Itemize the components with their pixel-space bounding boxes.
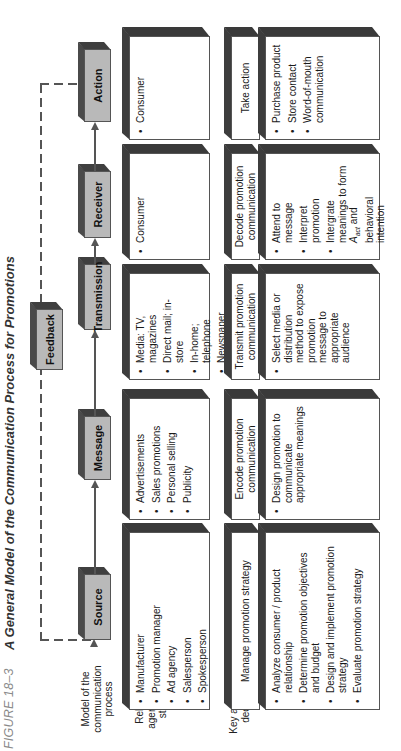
- attitude-subscript: act: [354, 227, 361, 236]
- agents-box-source: Manufacturer Promotion manager Ad agency…: [122, 523, 210, 710]
- list-item: Consumer: [135, 43, 147, 133]
- actions-header-receiver: Decode promotion communication: [224, 144, 260, 260]
- receiver-label: Receiver: [84, 171, 111, 238]
- process-box-transmission: Transmission: [78, 257, 111, 330]
- list-item: Analyze consumer / product relationship: [271, 539, 294, 703]
- list-item: Interpret promotion: [298, 160, 321, 253]
- actions-box-receiver: Attend to message Interpret promotion In…: [258, 144, 380, 260]
- message-label: Message: [84, 416, 111, 480]
- actions-header-source-text: Manage promotion strategy: [231, 532, 260, 710]
- list-item: Purchase product: [271, 43, 283, 133]
- actions-message-content: Design promotion to communicate appropri…: [265, 398, 380, 520]
- agents-source-content: Manufacturer Promotion manager Ad agency…: [129, 532, 210, 710]
- list-item: Word-of-mouth communication: [302, 43, 325, 133]
- list-item: Advertisements: [135, 405, 147, 513]
- list-item: Sales promotions: [151, 405, 163, 513]
- actions-header-transmission-text: Transmit promotion communication: [231, 273, 260, 380]
- arrowhead-icon: [91, 238, 99, 246]
- process-box-message: Message: [78, 409, 111, 480]
- feedback-dashed-line-top-right: [40, 83, 42, 303]
- list-item: Design and implement promotion strategy: [325, 539, 348, 703]
- actions-header-action: Take action: [224, 27, 260, 140]
- list-item-text: Intergrate meanings to form: [325, 166, 348, 243]
- list-item: Manufacturer: [135, 539, 147, 703]
- arrowhead-icon: [91, 330, 99, 338]
- actions-header-source: Manage promotion strategy: [224, 523, 260, 710]
- actions-header-action-text: Take action: [231, 36, 260, 140]
- arrow-source-message: [94, 488, 96, 574]
- transmission-label: Transmission: [84, 264, 111, 330]
- feedback-arrowhead-icon: [90, 639, 98, 647]
- agents-transmission-content: Media: TV, magazines Direct mail; in-sto…: [129, 273, 210, 380]
- feedback-dashed-line-top-left: [40, 370, 42, 641]
- list-item: Attend to message: [271, 160, 294, 253]
- list-item: Evaluate promotion strategy: [352, 539, 364, 703]
- list-item: Design promotion to communicate appropri…: [271, 405, 306, 513]
- actions-receiver-content: Attend to message Interpret promotion In…: [265, 153, 380, 260]
- agents-box-receiver: Consumer: [122, 144, 210, 260]
- actions-header-message-text: Encode promotion communication: [231, 398, 260, 520]
- agents-box-transmission: Media: TV, magazines Direct mail; in-sto…: [122, 264, 210, 380]
- row-label-model: Model of the communication process: [80, 659, 115, 739]
- list-item: Consumer: [135, 160, 147, 253]
- actions-source-content: Analyze consumer / product relationship …: [265, 532, 380, 710]
- actions-box-action: Purchase product Store contact Word-of-m…: [258, 27, 380, 140]
- attitude-symbol: A: [348, 236, 359, 243]
- list-item: Direct mail; in-store: [162, 280, 185, 373]
- agents-message-content: Advertisements Sales promotions Personal…: [129, 398, 210, 520]
- diagram-stage: FIGURE 18–3 A General Model of the Commu…: [0, 0, 401, 751]
- feedback-dashed-line-right: [40, 83, 78, 85]
- arrow-receiver-action: [94, 130, 96, 171]
- process-box-action: Action: [78, 42, 111, 122]
- list-item: Intergrate meanings to form Aact and beh…: [325, 160, 387, 253]
- figure-label: FIGURE 18–3: [2, 668, 16, 749]
- list-item: Spokesperson: [197, 539, 209, 703]
- arrow-transmission-receiver: [94, 246, 96, 264]
- list-item: Determine promotion objectives and budge…: [298, 539, 321, 703]
- list-item: Publicity: [182, 405, 194, 513]
- figure-title: A General Model of the Communication Pro…: [2, 256, 17, 650]
- actions-box-message: Design promotion to communicate appropri…: [258, 389, 380, 520]
- process-box-receiver: Receiver: [78, 164, 111, 238]
- actions-action-content: Purchase product Store contact Word-of-m…: [265, 36, 380, 140]
- list-item: Promotion manager: [151, 539, 163, 703]
- list-item: Salesperson: [182, 539, 194, 703]
- list-item: In-home; telephone: [189, 280, 212, 373]
- process-box-source: Source: [78, 567, 111, 640]
- list-item: Media: TV, magazines: [135, 280, 158, 373]
- agents-receiver-content: Consumer: [129, 153, 210, 260]
- actions-box-transmission: Select media or distribution method to e…: [258, 264, 380, 380]
- actions-transmission-content: Select media or distribution method to e…: [265, 273, 380, 380]
- agents-box-message: Advertisements Sales promotions Personal…: [122, 389, 210, 520]
- arrow-message-transmission: [94, 338, 96, 416]
- action-label: Action: [84, 49, 111, 122]
- list-item: Personal selling: [166, 405, 178, 513]
- actions-header-message: Encode promotion communication: [224, 389, 260, 520]
- list-item: Store contact: [287, 43, 299, 133]
- list-item: Ad agency: [166, 539, 178, 703]
- actions-box-source: Analyze consumer / product relationship …: [258, 523, 380, 710]
- process-box-feedback: Feedback: [30, 302, 63, 370]
- agents-box-action: Consumer: [122, 27, 210, 140]
- list-item: Select media or distribution method to e…: [271, 280, 352, 373]
- feedback-label: Feedback: [36, 309, 63, 370]
- arrowhead-icon: [91, 122, 99, 130]
- agents-action-content: Consumer: [129, 36, 210, 140]
- actions-header-receiver-text: Decode promotion communication: [231, 153, 260, 260]
- source-label: Source: [84, 574, 111, 640]
- arrowhead-icon: [91, 480, 99, 488]
- actions-header-transmission: Transmit promotion communication: [224, 264, 260, 380]
